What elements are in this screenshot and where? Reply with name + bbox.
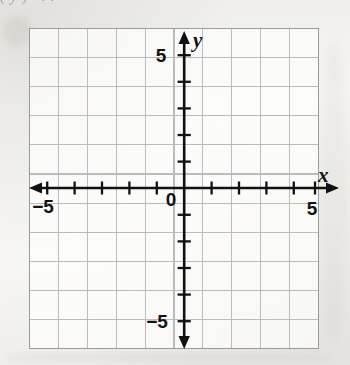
x-tick-label-negative-5: −5 <box>32 196 54 217</box>
x-tick-label-positive-5: 5 <box>307 198 318 219</box>
worksheet-graph-image: { "figure": { "kind": "blank-cartesian-c… <box>0 0 350 365</box>
origin-label: 0 <box>166 189 177 210</box>
x-axis-label: x <box>317 163 329 187</box>
y-tick-label-positive-5: 5 <box>156 45 167 66</box>
coordinate-grid-figure: y x 5 −5 5 −5 0 <box>0 0 350 365</box>
y-tick-label-negative-5: −5 <box>146 311 168 332</box>
